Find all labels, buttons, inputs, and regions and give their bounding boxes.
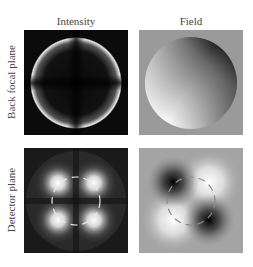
row-label-back-focal-plane: Back focal plane	[5, 27, 17, 137]
column-title-field: Field	[139, 15, 243, 27]
column-title-intensity: Intensity	[24, 15, 128, 27]
panel-detector-intensity	[24, 148, 128, 253]
panel-bfp-intensity	[24, 30, 128, 135]
detector-field-image	[139, 148, 243, 253]
row-label-detector-plane: Detector plane	[5, 145, 17, 255]
panel-bfp-field	[139, 30, 243, 135]
detector-intensity-image	[24, 148, 128, 253]
bfp-intensity-image	[24, 30, 128, 135]
bfp-field-image	[139, 30, 243, 135]
panel-detector-field	[139, 148, 243, 253]
